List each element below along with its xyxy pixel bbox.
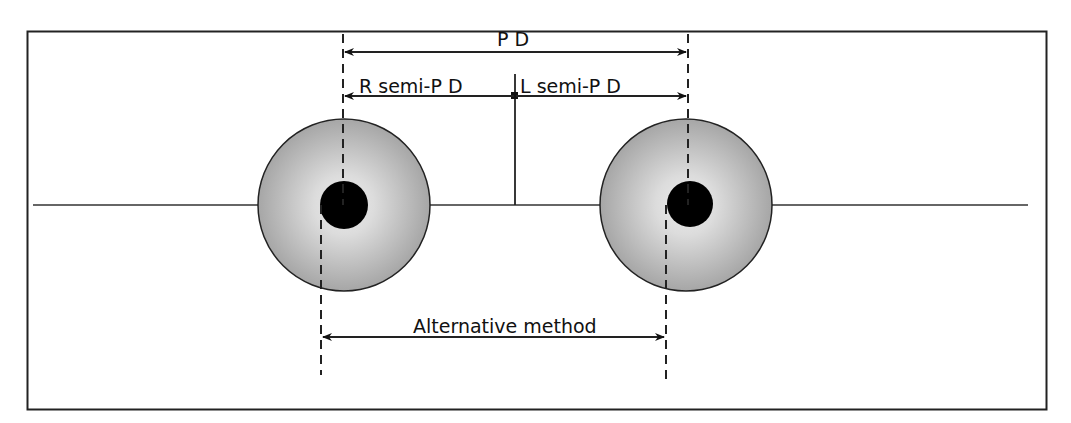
left-semi-pd-label: L semi-P D <box>520 75 621 97</box>
pd-diagram: P D R semi-P D L semi-P D Alternative me… <box>0 0 1071 423</box>
alternative-method-label: Alternative method <box>413 315 597 337</box>
right-semi-pd-label: R semi-P D <box>359 75 463 97</box>
pd-label: P D <box>497 28 529 50</box>
left-eye-pupil <box>667 181 713 227</box>
left-eye <box>600 119 772 291</box>
